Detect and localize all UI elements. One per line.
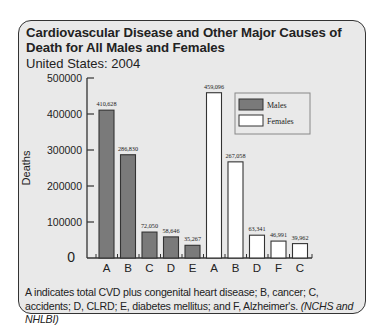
bar-females-c <box>293 244 308 258</box>
bar-value-label: 410,628 <box>96 100 116 107</box>
bar-males-d <box>164 237 179 258</box>
bar-value-label: 35,267 <box>184 235 201 242</box>
x-tick-label: D <box>167 262 175 274</box>
x-tick-label: A <box>103 262 111 274</box>
bar-males-e <box>185 245 200 258</box>
figure-caption: A indicates total CVD plus congenital he… <box>25 286 365 327</box>
bar-value-label: 459,096 <box>204 83 224 90</box>
y-tick-label: 300000 <box>47 144 82 156</box>
y-tick-label: 0 <box>67 249 75 265</box>
x-tick-label: B <box>232 262 240 274</box>
bar-value-label: 39,962 <box>291 234 308 241</box>
legend-label-males: Males <box>267 101 287 110</box>
y-tick-label: 400000 <box>47 108 82 120</box>
y-tick-label: 200000 <box>47 180 82 192</box>
y-tick-label: 100000 <box>47 216 82 228</box>
x-tick-label: C <box>145 262 153 274</box>
caption-text: A indicates total CVD plus congenital he… <box>25 286 319 312</box>
legend-label-females: Females <box>267 117 294 126</box>
bar-value-label: 63,341 <box>248 225 265 232</box>
bar-value-label: 46,991 <box>270 231 287 238</box>
bar-males-c <box>142 232 157 258</box>
bar-males-a <box>99 110 114 258</box>
x-tick-label: E <box>189 262 197 274</box>
legend-swatch-males <box>239 99 263 110</box>
x-tick-label: C <box>296 262 304 274</box>
y-tick-label: 500000 <box>47 72 82 84</box>
bar-value-label: 286,830 <box>118 145 138 152</box>
x-tick-label: D <box>253 262 261 274</box>
x-tick-label: A <box>210 262 218 274</box>
y-axis-label: Deaths <box>20 150 32 185</box>
bar-females-a <box>207 93 222 258</box>
bar-value-label: 72,050 <box>141 222 158 229</box>
bar-females-d <box>250 235 265 258</box>
bar-females-f <box>271 241 286 258</box>
bar-value-label: 267,058 <box>225 152 245 159</box>
x-tick-label: F <box>275 262 282 274</box>
bar-males-b <box>121 155 136 258</box>
bar-chart: 0100000200000300000400000500000Deaths410… <box>0 0 384 333</box>
legend-swatch-females <box>239 115 263 126</box>
bar-value-label: 58,646 <box>162 227 179 234</box>
x-tick-label: B <box>124 262 132 274</box>
bar-females-b <box>228 162 243 258</box>
